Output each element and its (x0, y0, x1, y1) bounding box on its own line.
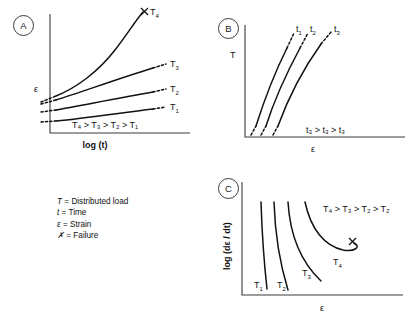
panel-c-badge: C (218, 178, 239, 199)
panel-a-curve-t1-dash (41, 121, 56, 122)
legend-item-failure: ✗ = Failure (57, 230, 128, 241)
panel-a-curve-t3-dash-end (153, 64, 166, 68)
panel-a: A T4 T3 T2 T1 ε T₄ > T₃ > T₂ > T₁ (0, 0, 205, 165)
legend-separator-failure: = (66, 231, 71, 240)
panel-b-curve-t3 (278, 44, 321, 126)
panel-b-label-t1: t1 (296, 24, 303, 36)
panel-b-y-axis-label: T (230, 50, 236, 60)
panel-a-curve-t1-dash-end (153, 107, 166, 109)
panel-c-label-t4: T4 (333, 257, 343, 269)
panel-a-curve-t2-dash (41, 110, 56, 112)
panel-a-x-axis-label: log (t) (83, 140, 108, 150)
legend-symbol-failure: ✗ (57, 231, 64, 240)
panel-c-x-axis-label: ε (320, 303, 324, 313)
panel-a-label-t1: T1 (170, 102, 180, 114)
panel-b-curve-t1-dash-start (251, 126, 256, 135)
panel-c-plot: T1 T2 T3 T4 T₄ > T₃ > T₂ > T₂ log (dε / … (195, 150, 418, 323)
panel-b-inequality: t₃ > t₃ > t₃ (306, 125, 345, 135)
panel-a-label-t4: T4 (150, 7, 160, 19)
legend-text-failure: Failure (73, 231, 98, 240)
panel-a-label-t2: T2 (170, 84, 180, 96)
panel-c-y-axis-label: log (dε / dt) (222, 222, 232, 270)
panel-a-inequality: T₄ > T₃ > T₂ > T₁ (72, 120, 138, 130)
panel-b-curve-t3-dash-end (321, 32, 331, 44)
legend-separator-T: = (64, 197, 69, 206)
legend-text-epsilon: Strain (70, 220, 91, 229)
panel-c-label-t1: T1 (254, 280, 264, 292)
panel-b: B t1 t2 t3 T t₃ > t₃ > t₃ ε (205, 0, 418, 165)
panel-a-label-t3: T3 (170, 59, 180, 71)
panel-b-label-t2: t2 (310, 24, 317, 36)
panel-b-curve-t2-dash-start (261, 126, 266, 135)
panel-b-curve-t1-dash-end (287, 33, 294, 48)
panel-a-badge: A (13, 15, 34, 36)
panel-b-badge: B (218, 18, 239, 39)
legend-item-T: T = Distributed load (57, 196, 128, 207)
legend-text-t: Time (69, 208, 87, 217)
panel-a-y-axis-label: ε (34, 84, 38, 94)
panel-a-curve-t2-dash-end (153, 89, 166, 92)
panel-a-failure-cross-icon (141, 8, 148, 15)
panel-b-axes (245, 25, 405, 137)
legend-item-epsilon: ε = Strain (57, 219, 128, 230)
legend-symbol-epsilon: ε (57, 220, 61, 229)
panel-c-curve-t1 (261, 202, 267, 289)
panel-c-inequality: T₄ > T₃ > T₂ > T₂ (323, 204, 390, 214)
panel-c: C T1 T2 T3 T4 T₄ > T₃ > T₂ > T₂ log (dε … (195, 150, 418, 323)
legend-symbol-t: t (57, 208, 59, 217)
legend-text-T: Distributed load (71, 197, 128, 206)
panel-b-label-t3: t3 (334, 24, 341, 36)
panel-c-curve-t2 (274, 202, 288, 290)
legend-separator-epsilon: = (63, 220, 68, 229)
panel-b-curve-t3-dash-start (273, 126, 278, 135)
panel-a-curve-t4 (56, 12, 143, 96)
legend-separator-t: = (62, 208, 67, 217)
panel-c-failure-cross-icon (349, 238, 356, 245)
legend: T = Distributed load t = Time ε = Strain… (57, 196, 128, 242)
legend-symbol-T: T (57, 197, 62, 206)
panel-a-axes (50, 14, 190, 133)
legend-item-t: t = Time (57, 207, 128, 218)
